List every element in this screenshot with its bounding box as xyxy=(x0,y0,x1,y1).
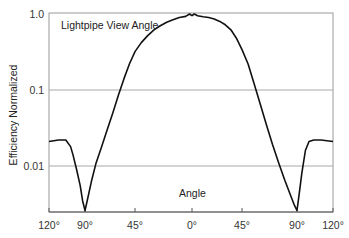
x-tick-label: 120° xyxy=(322,219,344,231)
y-axis-ticks: 1.00.10.01 xyxy=(24,8,45,172)
x-axis-label: Angle xyxy=(179,187,206,199)
x-tick-label: 0° xyxy=(187,219,197,231)
y-tick-label: 1.0 xyxy=(29,8,44,20)
chart-title: Lightpipe View Angle xyxy=(61,19,158,31)
x-tick-label: 45° xyxy=(127,219,143,231)
line-chart: 1.00.10.01 120°90°45°0°45°90°120° Lightp… xyxy=(0,0,349,238)
x-tick-label: 120° xyxy=(38,219,60,231)
x-tick-label: 90° xyxy=(289,219,305,231)
x-tick-label: 45° xyxy=(234,219,250,231)
y-tick-label: 0.1 xyxy=(29,84,44,96)
x-tick-label: 90° xyxy=(77,219,93,231)
y-axis-label: Efficiency Normalized xyxy=(7,64,19,165)
y-tick-label: 0.01 xyxy=(24,160,45,172)
